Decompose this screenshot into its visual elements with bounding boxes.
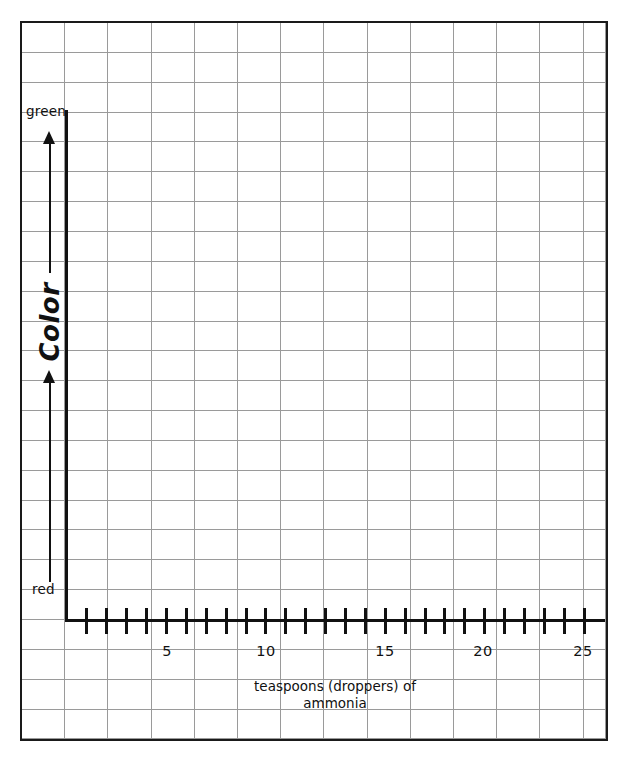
x-axis-tick xyxy=(384,608,387,634)
x-tick-label-10: 10 xyxy=(256,643,275,659)
x-tick-label-25: 25 xyxy=(573,643,592,659)
x-axis-tick xyxy=(364,608,367,634)
x-axis-tick xyxy=(503,608,506,634)
x-axis-tick xyxy=(205,608,208,634)
y-axis-bottom-label: red xyxy=(32,581,55,597)
x-axis-tick xyxy=(245,608,248,634)
y-axis-title: Color xyxy=(35,282,65,361)
graph-paper-grid xyxy=(20,21,608,741)
x-axis-tick xyxy=(443,608,446,634)
x-axis-caption-line2: ammonia xyxy=(235,695,435,712)
x-axis-tick xyxy=(105,608,108,634)
x-axis-caption: teaspoons (droppers) of ammonia xyxy=(235,678,435,712)
x-axis-tick xyxy=(583,608,586,634)
x-axis-tick xyxy=(125,608,128,634)
graph-worksheet: 5 10 15 20 25 green red Color teaspoons … xyxy=(0,0,626,757)
x-axis-tick xyxy=(543,608,546,634)
x-axis-tick xyxy=(344,608,347,634)
x-axis-tick xyxy=(523,608,526,634)
x-axis-tick xyxy=(324,608,327,634)
x-axis-tick xyxy=(424,608,427,634)
up-arrow-icon xyxy=(40,131,60,273)
x-axis-tick xyxy=(85,608,88,634)
x-axis-tick xyxy=(264,608,267,634)
x-tick-label-15: 15 xyxy=(375,643,394,659)
x-axis-tick xyxy=(563,608,566,634)
x-axis-caption-line1: teaspoons (droppers) of xyxy=(235,678,435,695)
x-axis-tick xyxy=(185,608,188,634)
x-axis-tick xyxy=(165,608,168,634)
x-tick-label-20: 20 xyxy=(473,643,492,659)
x-axis-tick xyxy=(404,608,407,634)
x-axis-tick xyxy=(145,608,148,634)
up-arrow-icon xyxy=(40,370,60,582)
x-axis-tick xyxy=(304,608,307,634)
x-axis-tick xyxy=(225,608,228,634)
x-axis-tick xyxy=(284,608,287,634)
y-axis-line xyxy=(65,110,68,622)
y-axis-top-label: green xyxy=(26,103,66,119)
x-axis-tick xyxy=(463,608,466,634)
x-tick-label-5: 5 xyxy=(162,643,172,659)
x-axis-tick xyxy=(483,608,486,634)
